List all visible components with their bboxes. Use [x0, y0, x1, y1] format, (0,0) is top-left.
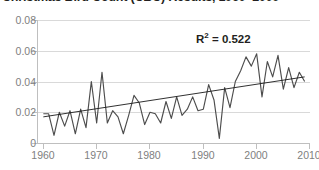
chart-container: Christmas Bird Count (CBC) Results, 1960… [0, 0, 319, 170]
r-squared-value: = 0.522 [212, 33, 251, 45]
r-squared-annotation: R2 = 0.522 [196, 31, 251, 45]
chart-plot-area [0, 0, 319, 170]
data-series-line [43, 54, 304, 139]
r-squared-exponent: 2 [204, 31, 208, 40]
trend-line [43, 77, 304, 117]
